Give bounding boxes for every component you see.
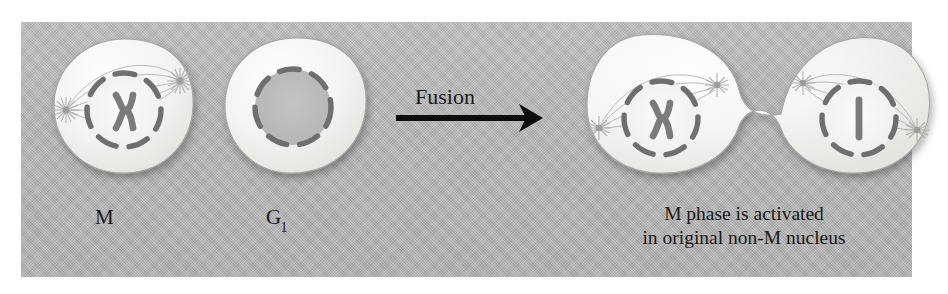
- m-cell-label-text: M: [95, 205, 114, 229]
- figure-root: M G1 Fusion M phase is activated in orig…: [0, 0, 948, 294]
- fusion-arrow-label-text: Fusion: [415, 84, 475, 109]
- m-cell-label: M: [95, 205, 114, 230]
- fused-cell: [587, 35, 930, 174]
- outcome-caption: M phase is activated in original non-M n…: [589, 202, 899, 250]
- g1-cell: [225, 38, 366, 173]
- g1-cell-label: G1: [266, 205, 289, 234]
- fusion-arrow-label: Fusion: [415, 84, 475, 110]
- g1-cell-label-subscript: 1: [280, 220, 287, 235]
- m-cell: [53, 39, 193, 173]
- outcome-caption-line-1: M phase is activated: [589, 202, 899, 226]
- outcome-caption-line-2: in original non-M nucleus: [589, 226, 899, 250]
- diagram-scene: M G1 Fusion M phase is activated in orig…: [21, 22, 912, 277]
- diagram-panel: M G1 Fusion M phase is activated in orig…: [21, 22, 912, 277]
